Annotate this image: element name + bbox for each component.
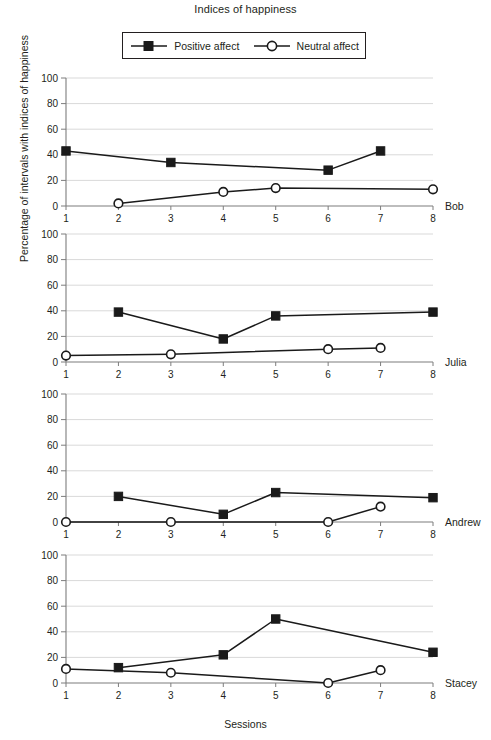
chart-title: Indices of happiness xyxy=(0,3,491,15)
data-point-neutral-affect xyxy=(271,184,280,193)
data-point-neutral-affect xyxy=(324,345,333,354)
y-tick-label: 20 xyxy=(47,331,59,342)
y-tick-label: 100 xyxy=(41,229,58,240)
chart-legend: Positive affect Neutral affect xyxy=(122,32,366,59)
x-tick-label: 2 xyxy=(116,369,122,378)
data-point-neutral-affect xyxy=(219,188,228,197)
x-tick-label: 7 xyxy=(378,213,384,222)
data-point-neutral-affect xyxy=(324,679,333,688)
x-tick-label: 1 xyxy=(63,529,69,538)
data-point-positive-affect xyxy=(219,651,227,659)
legend-label-positive-affect: Positive affect xyxy=(174,40,239,52)
y-tick-label: 80 xyxy=(47,98,59,109)
series-line-neutral-affect xyxy=(66,669,381,683)
x-tick-label: 4 xyxy=(221,213,227,222)
data-point-neutral-affect xyxy=(114,199,123,208)
data-point-neutral-affect xyxy=(167,668,176,677)
panel-plot-andrew: 02040608010012345678Andrew xyxy=(0,386,491,538)
y-tick-label: 40 xyxy=(47,465,59,476)
x-tick-label: 8 xyxy=(430,213,436,222)
panel-julia: 02040608010012345678Julia xyxy=(0,226,491,378)
data-point-positive-affect xyxy=(62,147,70,155)
x-tick-label: 3 xyxy=(168,529,174,538)
y-tick-label: 60 xyxy=(47,440,59,451)
y-tick-label: 80 xyxy=(47,575,59,586)
x-tick-label: 1 xyxy=(63,213,69,222)
x-tick-label: 5 xyxy=(273,369,279,378)
panel-label-julia: Julia xyxy=(445,356,467,368)
y-tick-label: 60 xyxy=(47,124,59,135)
x-tick-label: 6 xyxy=(325,213,331,222)
x-tick-label: 4 xyxy=(221,690,227,699)
series-line-neutral-affect xyxy=(66,348,381,356)
data-point-positive-affect xyxy=(272,615,280,623)
x-tick-label: 5 xyxy=(273,690,279,699)
data-point-positive-affect xyxy=(272,312,280,320)
x-tick-label: 8 xyxy=(430,369,436,378)
y-tick-label: 40 xyxy=(47,626,59,637)
x-tick-label: 1 xyxy=(63,690,69,699)
panel-label-andrew: Andrew xyxy=(445,516,481,528)
x-tick-label: 7 xyxy=(378,529,384,538)
data-point-positive-affect xyxy=(429,493,437,501)
x-tick-label: 5 xyxy=(273,529,279,538)
series-line-positive-affect xyxy=(66,151,381,170)
panel-label-bob: Bob xyxy=(445,200,464,212)
x-axis-label: Sessions xyxy=(0,718,491,730)
x-tick-label: 4 xyxy=(221,529,227,538)
x-tick-label: 4 xyxy=(221,369,227,378)
data-point-positive-affect xyxy=(114,492,122,500)
x-tick-label: 3 xyxy=(168,213,174,222)
panel-stacey: 02040608010012345678Stacey xyxy=(0,547,491,699)
data-point-positive-affect xyxy=(272,488,280,496)
x-tick-label: 1 xyxy=(63,369,69,378)
x-tick-label: 6 xyxy=(325,529,331,538)
x-tick-label: 7 xyxy=(378,369,384,378)
y-tick-label: 40 xyxy=(47,305,59,316)
data-point-neutral-affect xyxy=(376,502,385,511)
x-tick-label: 6 xyxy=(325,690,331,699)
data-point-positive-affect xyxy=(114,308,122,316)
y-tick-label: 60 xyxy=(47,601,59,612)
y-tick-label: 0 xyxy=(52,678,58,689)
data-point-positive-affect xyxy=(429,648,437,656)
legend-label-neutral-affect: Neutral affect xyxy=(297,40,359,52)
panel-bob: 02040608010012345678Bob xyxy=(0,70,491,222)
data-point-positive-affect xyxy=(219,335,227,343)
y-tick-label: 100 xyxy=(41,389,58,400)
data-point-neutral-affect xyxy=(167,518,176,527)
panel-andrew: 02040608010012345678Andrew xyxy=(0,386,491,538)
data-point-positive-affect xyxy=(167,158,175,166)
open-circle-marker-icon xyxy=(252,39,292,53)
series-line-positive-affect xyxy=(118,619,433,668)
data-point-neutral-affect xyxy=(62,665,71,674)
x-tick-label: 5 xyxy=(273,213,279,222)
y-tick-label: 0 xyxy=(52,201,58,212)
y-tick-label: 20 xyxy=(47,491,59,502)
happiness-figure: Indices of happiness Positive affect Neu… xyxy=(0,0,491,740)
data-point-neutral-affect xyxy=(376,344,385,353)
data-point-neutral-affect xyxy=(62,518,71,527)
data-point-neutral-affect xyxy=(429,185,438,194)
legend-item-neutral-affect: Neutral affect xyxy=(252,39,359,53)
panel-label-stacey: Stacey xyxy=(445,677,478,689)
y-tick-label: 40 xyxy=(47,149,59,160)
data-point-positive-affect xyxy=(219,510,227,518)
x-tick-label: 7 xyxy=(378,690,384,699)
data-point-neutral-affect xyxy=(376,666,385,675)
legend-item-positive-affect: Positive affect xyxy=(129,39,239,53)
data-point-neutral-affect xyxy=(62,351,71,360)
y-tick-label: 60 xyxy=(47,280,59,291)
x-tick-label: 2 xyxy=(116,529,122,538)
y-tick-label: 0 xyxy=(52,517,58,528)
y-tick-label: 20 xyxy=(47,652,59,663)
x-tick-label: 2 xyxy=(116,213,122,222)
x-tick-label: 6 xyxy=(325,369,331,378)
x-tick-label: 2 xyxy=(116,690,122,699)
y-tick-label: 80 xyxy=(47,254,59,265)
y-tick-label: 0 xyxy=(52,357,58,368)
x-tick-label: 8 xyxy=(430,690,436,699)
y-tick-label: 20 xyxy=(47,175,59,186)
x-tick-label: 3 xyxy=(168,690,174,699)
data-point-positive-affect xyxy=(429,308,437,316)
